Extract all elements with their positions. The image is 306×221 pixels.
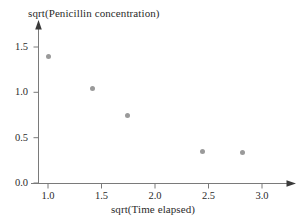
y-axis-arrow <box>35 20 42 30</box>
scatter-plot-figure: sqrt(Penicillin concentration) sqrt(Time… <box>0 0 306 221</box>
data-point <box>125 113 130 118</box>
x-tick-label: 3.0 <box>247 190 277 201</box>
x-tick-label: 1.5 <box>87 190 117 201</box>
y-axis-label: sqrt(Penicillin concentration) <box>28 7 160 19</box>
y-tick-label: 0.5 <box>2 132 28 143</box>
x-tick-label: 2.5 <box>194 190 224 201</box>
y-tick-label: 1.0 <box>2 86 28 97</box>
plot-axes <box>0 0 306 221</box>
data-point <box>240 150 245 155</box>
y-tick-label: 1.5 <box>2 41 28 52</box>
x-axis-label: sqrt(Time elapsed) <box>0 203 306 215</box>
x-tick-label: 2.0 <box>140 190 170 201</box>
x-axis-arrow <box>287 180 297 187</box>
x-tick-label: 1.0 <box>33 190 63 201</box>
y-tick-label: 0.0 <box>2 177 28 188</box>
data-point <box>200 149 205 154</box>
